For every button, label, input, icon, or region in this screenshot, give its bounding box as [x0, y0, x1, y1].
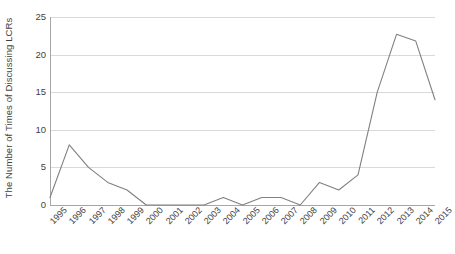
- series-polyline: [50, 34, 435, 205]
- plot-area: [50, 17, 435, 205]
- y-axis-tick-labels: 0510152025: [20, 0, 46, 254]
- y-tick-label-0: 0: [20, 200, 46, 210]
- series-line-discussing-lcrs: [50, 17, 435, 205]
- y-tick-label-25: 25: [20, 12, 46, 22]
- y-tick-label-5: 5: [20, 162, 46, 172]
- y-tick-label-20: 20: [20, 50, 46, 60]
- y-axis-title: The Number of Times of Discussing LCRs: [2, 2, 16, 214]
- y-tick-label-15: 15: [20, 87, 46, 97]
- y-tick-label-10: 10: [20, 125, 46, 135]
- x-axis-tick-labels: 1995199619971998199920002001200220032004…: [50, 205, 435, 254]
